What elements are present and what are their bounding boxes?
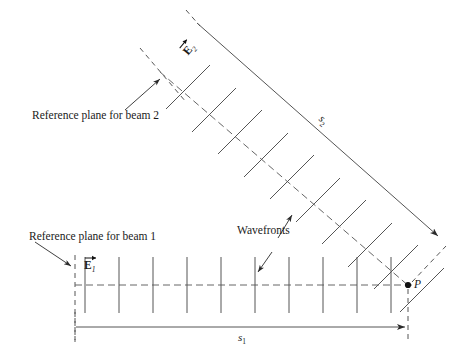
- label-field-e1: E1: [84, 260, 95, 274]
- label-point-p: P: [414, 279, 421, 291]
- label-reference-plane-beam2: Reference plane for beam 2: [32, 110, 159, 122]
- point-p-marker: [405, 282, 411, 288]
- beam2-wavefront: [296, 178, 340, 222]
- label-distance-s1: s1: [238, 332, 246, 346]
- leader-wavefronts-beam1: [258, 252, 272, 272]
- beam2-wavefronts: [166, 65, 444, 312]
- beam2-group: [140, 48, 444, 312]
- leader-ref-plane-beam1: [35, 242, 71, 266]
- beam2-wavefront: [244, 133, 288, 177]
- optics-interference-figure: Reference plane for beam 1 Reference pla…: [0, 0, 462, 363]
- label-reference-plane-beam1: Reference plane for beam 1: [29, 231, 156, 243]
- beam2-wavefront: [348, 223, 392, 267]
- figure-canvas: [0, 0, 462, 363]
- label-field-e1-symbol: E: [84, 259, 92, 271]
- beam2-axis: [160, 72, 410, 287]
- beam2-wavefront: [192, 88, 236, 132]
- beam2-wavefront: [374, 245, 418, 289]
- s2-extension-bottom: [412, 246, 446, 282]
- dimension-s2-group: [186, 10, 446, 282]
- s2-dimension-line: [197, 23, 438, 236]
- label-wavefronts: Wavefronts: [237, 225, 290, 237]
- beam2-wavefront: [270, 155, 314, 199]
- label-field-e1-subscript: 1: [92, 265, 96, 274]
- leader-ref-plane-beam2: [125, 79, 160, 110]
- beam2-wavefront: [322, 200, 366, 244]
- beam2-wavefront: [218, 110, 262, 154]
- beam2-wavefront: [400, 268, 444, 312]
- label-distance-s1-subscript: 1: [242, 337, 246, 346]
- beam2-wavefront: [166, 65, 210, 109]
